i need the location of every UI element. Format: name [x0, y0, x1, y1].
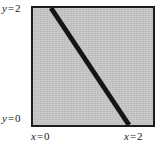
x-axis-left-variable: x	[31, 130, 36, 142]
y-axis-top-value: 2	[15, 2, 21, 14]
y-axis-bottom-equals: =	[8, 112, 14, 124]
y-axis-bottom-value: 0	[15, 112, 21, 124]
y-axis-bottom-variable: y	[2, 112, 7, 124]
y-axis-bottom-label: y=0	[2, 113, 21, 124]
x-axis-right-value: 2	[137, 130, 143, 142]
figure-line-in-square: y=2 y=0 x=0 x=2	[0, 0, 162, 147]
plot-canvas	[33, 8, 153, 125]
x-axis-right-equals: =	[130, 130, 136, 142]
x-axis-right-variable: x	[124, 130, 129, 142]
x-axis-left-label: x=0	[31, 131, 50, 142]
y-axis-top-label: y=2	[2, 3, 21, 14]
y-axis-top-variable: y	[2, 2, 7, 14]
x-axis-right-label: x=2	[124, 131, 143, 142]
data-line	[51, 8, 129, 125]
x-axis-left-value: 0	[44, 130, 50, 142]
y-axis-top-equals: =	[8, 2, 14, 14]
x-axis-left-equals: =	[37, 130, 43, 142]
plot-frame	[31, 6, 155, 127]
